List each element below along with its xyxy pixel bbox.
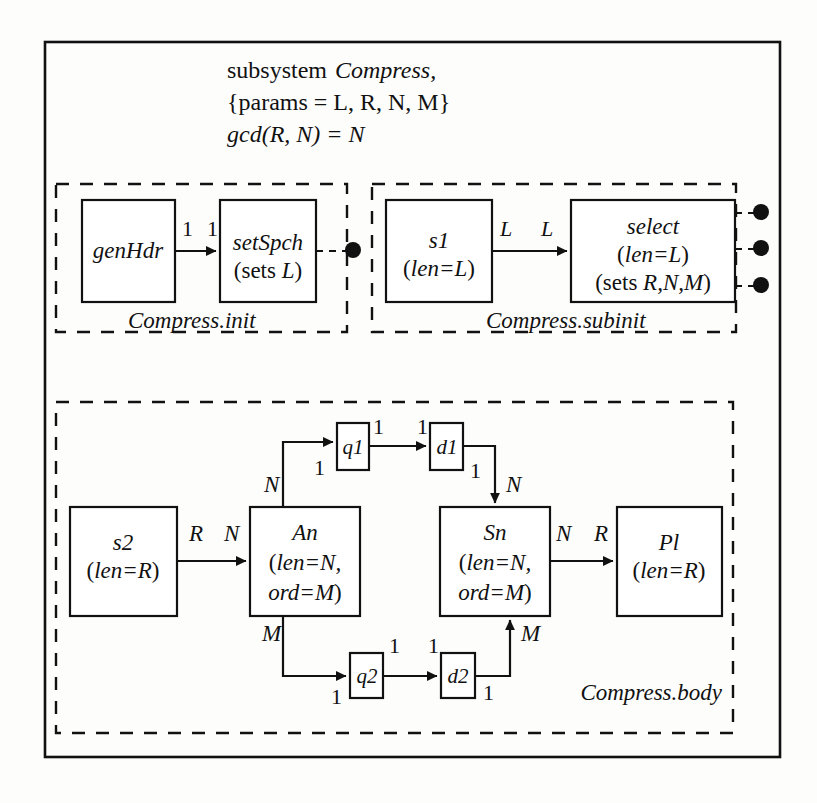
edge-label-q1-in: 1	[314, 455, 325, 480]
port-dot-subinit-2[interactable]	[753, 240, 769, 256]
port-dot-subinit-3[interactable]	[753, 277, 769, 293]
edge-label-Sn-top-in: N	[505, 472, 523, 497]
group-label-compress-subinit: Compress.subinit	[486, 308, 646, 333]
block-setSpch-sublabel: (sets L)	[234, 258, 302, 283]
edge-label-Pl-in: R	[593, 521, 608, 546]
block-Sn-sublabel-1: (len=N,	[459, 550, 531, 575]
header-line-1: subsystem Compress,	[227, 57, 436, 83]
edge-label-d2-in: 1	[428, 633, 439, 658]
edge-An-q2	[283, 616, 346, 676]
port-dot-subinit-1[interactable]	[753, 204, 769, 220]
block-genHdr-label: genHdr	[93, 238, 164, 263]
edge-label-s2-out: R	[188, 521, 203, 546]
outer-frame	[45, 42, 780, 757]
edge-label-An-in: N	[223, 521, 241, 546]
block-An-sublabel-2: ord=M)	[268, 580, 341, 605]
block-Pl-label: Pl	[658, 530, 679, 555]
block-s1-sublabel: (len=L)	[403, 256, 475, 281]
block-Sn-label: Sn	[484, 520, 507, 545]
block-s2-label: s2	[113, 530, 133, 555]
edge-label-An-bot-out: M	[261, 621, 283, 646]
block-select-label: select	[627, 214, 680, 239]
edge-label-s1-out: L	[499, 216, 512, 241]
port-dot-init-1[interactable]	[345, 242, 361, 258]
edge-An-q1	[283, 442, 333, 507]
block-setSpch-label: setSpch	[233, 230, 303, 255]
edge-label-d2-out: 1	[483, 680, 494, 705]
group-label-compress-init: Compress.init	[128, 308, 256, 333]
edge-label-setSpch-in: 1	[207, 216, 218, 241]
block-d2-label: d2	[448, 664, 470, 688]
edge-label-select-in: L	[540, 216, 553, 241]
block-An-label: An	[290, 520, 318, 545]
block-q1-label: q1	[343, 435, 364, 459]
edge-label-genHdr-out: 1	[182, 216, 193, 241]
block-s2-sublabel: (len=R)	[86, 558, 159, 583]
block-select-sublabel-2: (sets R,N,M)	[595, 270, 711, 295]
group-label-compress-body: Compress.body	[580, 680, 722, 705]
diagram-canvas: subsystem Compress, {params = L, R, N, M…	[0, 0, 817, 803]
block-q2-label: q2	[357, 664, 379, 688]
header-line-2: {params = L, R, N, M}	[227, 89, 450, 115]
edge-label-Sn-out: N	[555, 521, 573, 546]
block-s1-label: s1	[429, 228, 449, 253]
edge-label-An-top-out: N	[263, 472, 281, 497]
edge-d2-Sn	[475, 620, 510, 676]
block-Pl-sublabel: (len=R)	[632, 558, 705, 583]
compress-subsystem-diagram: subsystem Compress, {params = L, R, N, M…	[0, 0, 817, 803]
edge-label-d1-in: 1	[417, 414, 428, 439]
block-Sn-sublabel-2: ord=M)	[458, 580, 531, 605]
edge-label-Sn-bot-in: M	[520, 621, 542, 646]
edge-label-q2-in: 1	[331, 684, 342, 709]
edge-label-q1-out: 1	[373, 414, 384, 439]
edge-label-d1-out: 1	[470, 458, 481, 483]
header-line-3: gcd(R, N) = N	[227, 121, 367, 147]
block-d1-label: d1	[437, 435, 458, 459]
block-An-sublabel-1: (len=N,	[269, 550, 341, 575]
block-select-sublabel-1: (len=L)	[617, 242, 689, 267]
edge-label-q2-out: 1	[389, 633, 400, 658]
